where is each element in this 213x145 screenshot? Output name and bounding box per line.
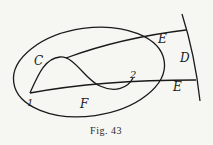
ellipse-region-boundary — [8, 18, 171, 126]
curve-c — [30, 57, 133, 93]
label-point-1: 1 — [27, 97, 33, 108]
label-f: F — [79, 97, 89, 111]
label-d: D — [179, 51, 190, 65]
label-e-upper: E — [157, 32, 167, 46]
upper-line-e — [66, 30, 186, 58]
figure-diagram: C E D 2 E 1 F Fig. 43 — [0, 0, 213, 145]
figure-caption: Fig. 43 — [90, 125, 122, 136]
lower-line-e — [30, 80, 196, 93]
label-point-2: 2 — [129, 69, 136, 80]
label-e-lower: E — [172, 80, 182, 94]
label-c: C — [34, 54, 43, 68]
